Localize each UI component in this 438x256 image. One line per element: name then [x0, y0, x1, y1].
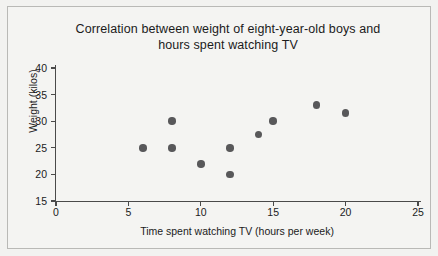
data-point — [197, 160, 205, 168]
data-point — [226, 144, 234, 152]
x-axis-title: Time spent watching TV (hours per week) — [56, 225, 418, 237]
x-tick-label: 5 — [113, 206, 143, 218]
x-tick-label: 20 — [331, 206, 361, 218]
chart-title-line-2: hours spent watching TV — [38, 37, 418, 53]
x-tick-label: 25 — [403, 206, 433, 218]
chart-figure: Correlation between weight of eight-year… — [0, 0, 438, 256]
data-point — [269, 117, 277, 125]
chart-title: Correlation between weight of eight-year… — [38, 21, 418, 53]
data-point — [226, 171, 234, 179]
data-point — [139, 144, 147, 152]
y-tick-label: 30 — [22, 115, 47, 127]
data-point — [168, 144, 176, 152]
y-tick-label: 40 — [22, 62, 47, 74]
x-tick-label: 15 — [258, 206, 288, 218]
y-tick-label: 35 — [22, 89, 47, 101]
data-point — [168, 117, 176, 125]
y-tick-label: 25 — [22, 142, 47, 154]
chart-title-line-1: Correlation between weight of eight-year… — [38, 21, 418, 37]
y-tick-label: 20 — [22, 168, 47, 180]
figure-frame: Correlation between weight of eight-year… — [7, 6, 431, 249]
plot-area — [56, 68, 418, 201]
x-tick-label: 10 — [186, 206, 216, 218]
x-tick-label: 0 — [41, 206, 71, 218]
